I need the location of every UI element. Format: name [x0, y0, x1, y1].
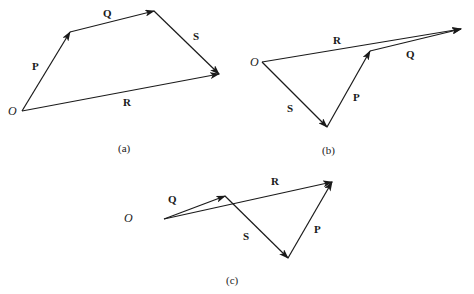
vector-label-s: S [243, 230, 249, 242]
vector-label-p: P [353, 91, 360, 103]
vector-diagram-svg: PQSRO(a)SPQRO(b)QSPRO(c) [0, 0, 474, 294]
vector-arrow-s [262, 62, 327, 127]
panel-a: PQSRO(a) [8, 7, 219, 155]
vector-arrow-q [370, 29, 461, 51]
vector-label-s: S [193, 30, 199, 42]
panel-b: SPQRO(b) [250, 29, 461, 157]
vector-diagram-figure: PQSRO(a)SPQRO(b)QSPRO(c) [0, 0, 474, 294]
vector-arrow-r [22, 74, 219, 111]
panels: PQSRO(a)SPQRO(b)QSPRO(c) [8, 7, 461, 287]
vector-arrow-r [164, 182, 332, 219]
vector-label-q: Q [168, 193, 177, 205]
vector-arrow-p [327, 51, 370, 127]
vector-arrow-s [154, 11, 219, 74]
vector-arrow-q [70, 11, 154, 32]
vector-label-q: Q [406, 48, 415, 60]
vector-label-r: R [123, 96, 132, 108]
panel-c: QSPRO(c) [124, 175, 332, 287]
vector-label-s: S [287, 102, 293, 114]
origin-label: O [124, 211, 133, 225]
origin-label: O [250, 55, 259, 69]
vector-label-p: P [32, 60, 39, 72]
vector-arrow-r [262, 29, 461, 62]
vector-label-r: R [271, 175, 280, 187]
panel-caption: (a) [118, 142, 131, 155]
vector-label-q: Q [103, 7, 112, 19]
vector-arrow-p [22, 32, 70, 111]
vector-arrow-s [225, 196, 288, 258]
panel-caption: (b) [322, 144, 335, 157]
vector-arrow-p [288, 182, 332, 258]
panel-caption: (c) [226, 274, 239, 287]
origin-label: O [8, 104, 17, 118]
vector-label-p: P [314, 223, 321, 235]
vector-label-r: R [333, 34, 342, 46]
